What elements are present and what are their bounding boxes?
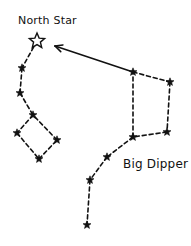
big-dipper-label: Big Dipper xyxy=(123,157,188,171)
star-icon xyxy=(163,128,171,136)
pointer-arrow xyxy=(55,45,133,72)
constellation-lines xyxy=(17,41,170,225)
constellation-diagram xyxy=(0,0,191,246)
star-icon xyxy=(16,89,24,97)
north-star-icon xyxy=(29,33,44,47)
north-star-label: North Star xyxy=(18,14,77,27)
stars xyxy=(13,33,174,228)
star-icon xyxy=(83,221,91,229)
